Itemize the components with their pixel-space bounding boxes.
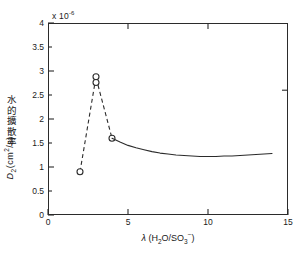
chart-canvas: [0, 0, 304, 255]
model-curve-path: [112, 138, 272, 156]
x-axis-title-mid: O/SO: [162, 233, 185, 243]
series-measured-points: [77, 74, 115, 175]
data-point-marker: [77, 169, 83, 175]
x-axis-title-close: ): [192, 233, 195, 243]
y-axis-title-symbol: D2(cm2/s): [4, 136, 18, 179]
x-axis-title: λ (H2O/SO3−): [48, 232, 288, 245]
y-axis-title: 水的擴散率 D2(cm2/s): [2, 55, 20, 205]
data-point-marker: [93, 80, 99, 86]
chart-figure: x 10-6 00.511.522.533.54 051015 水的擴散率 D2…: [0, 0, 304, 255]
data-point-marker: [93, 74, 99, 80]
series-model-curve: [112, 138, 272, 156]
x-axis-title-sub-3: 3: [184, 238, 188, 245]
tick-marks-group: [48, 23, 288, 215]
x-axis-title-open: (H: [146, 233, 158, 243]
data-series-group: [77, 74, 272, 175]
dashed-connector-path: [80, 77, 112, 172]
